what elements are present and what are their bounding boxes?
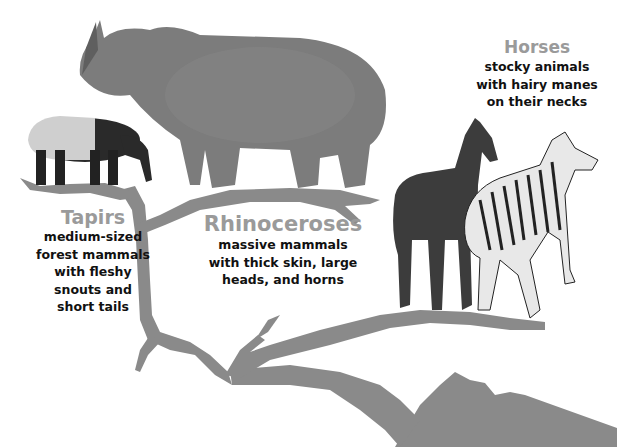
horse-twig: [255, 315, 280, 340]
tapirs-title: Tapirs: [18, 206, 168, 228]
lower-branch: [230, 365, 420, 447]
rhinoceroses-label: Rhinoceroses massive mammals with thick …: [178, 212, 388, 289]
tapirs-desc-line: forest mammals: [18, 246, 168, 264]
tapirs-desc-line: short tails: [18, 298, 168, 316]
tapirs-desc-line: medium-sized: [18, 228, 168, 246]
horses-desc-line: stocky animals: [462, 58, 612, 76]
tapirs-desc-line: with fleshy: [18, 263, 168, 281]
rhinoceros-illustration: [80, 20, 386, 188]
zebra-illustration: [465, 132, 598, 318]
horses-title: Horses: [462, 36, 612, 58]
left-twig: [135, 335, 160, 372]
evolution-tree-diagram: Tapirs medium-sized forest mammals with …: [0, 0, 617, 447]
rhinoceroses-desc-line: heads, and horns: [178, 271, 388, 289]
tapir-illustration: [28, 116, 152, 185]
horses-desc-line: with hairy manes: [462, 76, 612, 94]
rhinoceroses-desc-line: with thick skin, large: [178, 254, 388, 272]
rhinoceroses-title: Rhinoceroses: [178, 212, 388, 236]
tapirs-label: Tapirs medium-sized forest mammals with …: [18, 206, 168, 316]
tapirs-desc-line: snouts and: [18, 281, 168, 299]
rhinoceroses-desc-line: massive mammals: [178, 236, 388, 254]
trunk-branch: [395, 372, 617, 447]
horses-desc-line: on their necks: [462, 93, 612, 111]
horses-label: Horses stocky animals with hairy manes o…: [462, 36, 612, 111]
